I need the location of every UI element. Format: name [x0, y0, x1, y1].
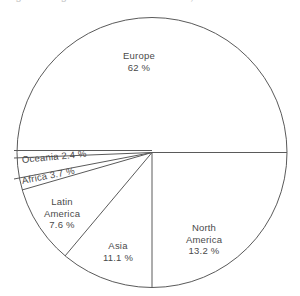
- slice-label-europe-value: 62 %: [123, 62, 155, 74]
- pie-chart-figure: Figure 4.2 Regional distribution of worl…: [0, 0, 300, 296]
- slice-label-asia-value: 11.1 %: [103, 252, 133, 264]
- slice-label-asia-name: Asia: [108, 240, 127, 251]
- slice-label-latin-america-name2: America: [44, 208, 80, 220]
- pie-chart-graphic: [0, 0, 300, 296]
- slice-label-north-america: North America 13.2 %: [186, 222, 222, 257]
- slice-label-latin-america: Latin America 7.6 %: [44, 196, 80, 231]
- slice-label-europe: Europe 62 %: [123, 50, 155, 73]
- slice-label-north-america-name2: America: [186, 234, 222, 246]
- slice-label-north-america-name: North: [192, 222, 216, 233]
- slice-label-europe-name: Europe: [123, 50, 155, 61]
- slice-label-latin-america-name: Latin: [51, 196, 73, 207]
- slice-label-latin-america-value: 7.6 %: [44, 219, 80, 231]
- slice-label-asia: Asia 11.1 %: [103, 240, 133, 263]
- slice-label-north-america-value: 13.2 %: [186, 245, 222, 257]
